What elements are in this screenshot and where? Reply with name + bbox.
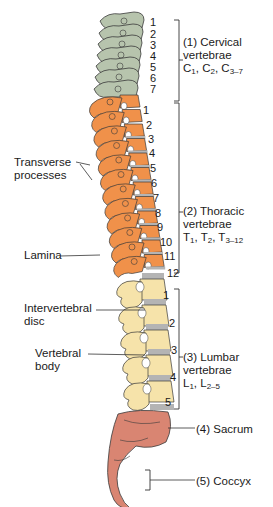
lamina-label: Lamina <box>24 249 62 262</box>
thoracic-number-10: 10 <box>160 237 172 248</box>
thoracic-number-4: 4 <box>149 148 155 159</box>
thoracic-number-11: 11 <box>164 251 175 262</box>
thoracic-number-9: 9 <box>157 222 163 233</box>
vertebral-column-diagram: 123456712345678910111212345 (1) Cervical… <box>0 0 273 507</box>
transverse-processes-label: Transverse processes <box>14 156 71 182</box>
lumbar-number-5: 5 <box>165 397 171 408</box>
thoracic-number-3: 3 <box>148 134 154 145</box>
thoracic-number-6: 6 <box>151 178 157 189</box>
cervical-number-1: 1 <box>150 17 156 28</box>
coccyx-label: (5) Coccyx <box>196 475 251 488</box>
lumbar-number-3: 3 <box>171 345 177 356</box>
thoracic-notation: T1, T2, T3–12 <box>183 231 244 244</box>
cervical-vertebrae-illustration <box>94 12 144 98</box>
sacrum-label: (4) Sacrum <box>196 423 253 436</box>
lumbar-number-2: 2 <box>169 318 175 329</box>
cervical-label: (1) Cervical vertebrae C1, C2, C3–7 <box>183 36 243 75</box>
lumbar-number-4: 4 <box>170 372 176 383</box>
thoracic-number-2: 2 <box>146 120 152 131</box>
lumbar-label: (3) Lumbar vertebrae L1, L2–5 <box>183 351 239 390</box>
thoracic-label: (2) Thoracic vertebrae T1, T2, T3–12 <box>183 205 244 244</box>
cervical-notation: C1, C2, C3–7 <box>183 62 243 75</box>
lumbar-number-1: 1 <box>163 290 169 301</box>
cervical-number-7: 7 <box>150 84 156 95</box>
vertebral-body-label: Vertebral body <box>35 347 81 373</box>
intervertebral-disc-label: Intervertebral disc <box>24 302 92 328</box>
lumbar-notation: L1, L2–5 <box>183 377 239 390</box>
thoracic-number-12: 12 <box>167 268 179 279</box>
thoracic-number-7: 7 <box>153 193 159 204</box>
thoracic-number-8: 8 <box>155 208 161 219</box>
sacrum-illustration <box>108 410 171 507</box>
thoracic-number-5: 5 <box>150 163 156 174</box>
thoracic-number-1: 1 <box>143 105 149 116</box>
